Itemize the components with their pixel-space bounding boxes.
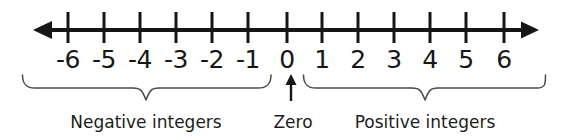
number-line-canvas: -6-5-4-3-2-10123456 Negative integers Ze…	[0, 0, 561, 140]
caption-positive-integers: Positive integers	[355, 112, 496, 132]
negative-brace-icon	[23, 75, 272, 100]
negative-brace-group	[23, 75, 272, 100]
caption-group: Negative integers Zero Positive integers	[70, 112, 495, 132]
caption-zero: Zero	[273, 112, 312, 132]
tick-label: -6	[56, 45, 80, 74]
right-arrow-icon	[521, 22, 539, 39]
tick-label: 2	[350, 45, 365, 74]
left-arrow-icon	[33, 21, 52, 39]
tick-label: 4	[422, 45, 437, 74]
tick-label: -4	[128, 45, 152, 74]
tick-label: 3	[386, 45, 401, 74]
tick-label: 1	[314, 45, 329, 74]
tick-label: 5	[458, 45, 473, 74]
tick-label: -1	[236, 45, 260, 74]
tick-label: 6	[496, 45, 511, 74]
tick-label: 0	[279, 45, 294, 74]
caption-negative-integers: Negative integers	[70, 112, 222, 132]
tick-label: -2	[200, 45, 224, 74]
zero-pointer-group	[286, 74, 297, 101]
zero-arrow-icon	[286, 74, 297, 85]
number-line-figure: -6-5-4-3-2-10123456 Negative integers Ze…	[0, 0, 561, 140]
tick-label-group: -6-5-4-3-2-10123456	[56, 45, 512, 74]
tick-mark-group	[68, 12, 504, 43]
positive-brace-group	[304, 75, 546, 100]
positive-brace-icon	[304, 75, 546, 100]
tick-label: -5	[92, 45, 116, 74]
tick-label: -3	[164, 45, 188, 74]
